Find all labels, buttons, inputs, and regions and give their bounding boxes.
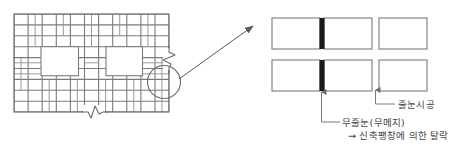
joint-bar-top <box>320 18 325 49</box>
tile-bottom-left <box>272 60 320 91</box>
leader-nojoint <box>322 92 341 122</box>
callout-arrow <box>179 26 253 79</box>
tile-top-mid <box>324 18 372 49</box>
label-detachment-result: → 신축팽창에 의한 탈락 <box>348 130 449 141</box>
tile-wall-elevation <box>14 14 253 118</box>
break-symbol-right <box>163 46 176 74</box>
opening-left <box>41 47 79 76</box>
detail-callout-circle <box>148 66 181 99</box>
break-symbol-bottom <box>82 105 108 118</box>
wall-openings <box>41 47 143 76</box>
tile-top-right <box>379 18 427 49</box>
detail-row-bottom <box>272 60 427 91</box>
label-joint-construction: 줄눈시공 <box>398 99 435 110</box>
leader-joint <box>376 90 396 104</box>
tile-bottom-mid <box>324 60 372 91</box>
tile-bottom-right <box>379 60 427 91</box>
label-no-joint: 무줄눈(무메지) <box>342 117 405 128</box>
detail-row-top <box>272 18 427 49</box>
opening-right <box>106 47 143 76</box>
joint-bar-bottom <box>320 60 325 91</box>
grid-offset-lines <box>14 14 169 112</box>
tile-top-left <box>272 18 320 49</box>
